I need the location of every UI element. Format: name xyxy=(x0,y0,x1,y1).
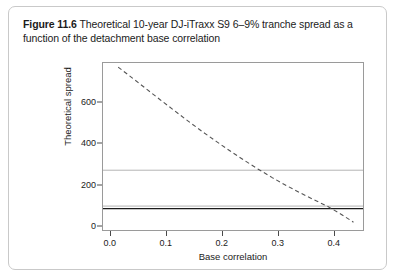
figure-number: Figure 11.6 xyxy=(23,18,77,30)
plot-frame xyxy=(102,62,364,231)
x-axis-label: Base correlation xyxy=(102,251,364,262)
x-tick-mark xyxy=(334,231,335,236)
y-tick-label: 0 xyxy=(91,221,96,231)
y-tick-label: 400 xyxy=(81,138,96,148)
chart-series-svg xyxy=(103,63,363,230)
y-axis-label: Theoretical spread xyxy=(62,37,73,177)
x-tick-label: 0.4 xyxy=(328,238,341,248)
x-tick-label: 0.2 xyxy=(216,238,229,248)
reference-lines-group xyxy=(103,170,363,208)
x-tick-label: 0.3 xyxy=(272,238,285,248)
figure-caption: Figure 11.6 Theoretical 10-year DJ-iTrax… xyxy=(23,17,373,45)
y-tick-label: 600 xyxy=(81,97,96,107)
x-tick-mark xyxy=(278,231,279,236)
theoretical-spread-curve xyxy=(118,67,353,222)
figure-card: Figure 11.6 Theoretical 10-year DJ-iTrax… xyxy=(8,6,387,270)
x-tick-label: 0.1 xyxy=(159,238,172,248)
y-tick-label: 200 xyxy=(81,180,96,190)
y-axis: 0200400600 xyxy=(83,62,102,231)
x-tick-mark xyxy=(222,231,223,236)
x-tick-label: 0.0 xyxy=(103,238,116,248)
x-tick-mark xyxy=(166,231,167,236)
x-tick-mark xyxy=(110,231,111,236)
chart-plot-area: Theoretical spread 0200400600 0.00.10.20… xyxy=(43,49,373,264)
